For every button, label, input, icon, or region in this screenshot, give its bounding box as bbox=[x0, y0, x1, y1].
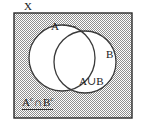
label-a-complement-intersect-b-complement: Ac∩Bc bbox=[22, 97, 53, 110]
venn-diagram-figure: X A B A∪B Ac∩Bc bbox=[0, 0, 144, 125]
label-union-a-b: A∪B bbox=[79, 76, 104, 87]
complement-a-base: A bbox=[22, 96, 30, 108]
label-universal-set-x: X bbox=[24, 1, 32, 12]
intersection-operator: ∩ bbox=[33, 96, 43, 108]
label-set-a: A bbox=[51, 21, 59, 32]
complement-b-superscript: c bbox=[50, 95, 53, 103]
label-set-b: B bbox=[106, 49, 113, 60]
